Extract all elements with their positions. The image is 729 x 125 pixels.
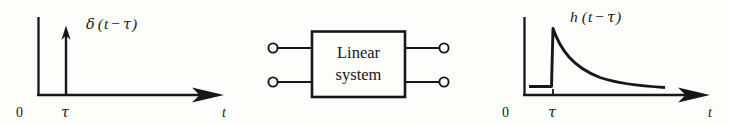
- input-terminal-top: [268, 43, 277, 52]
- input-open-paren: (: [98, 15, 104, 33]
- delta-symbol: δ: [86, 16, 95, 32]
- input-x-axis-label: t: [222, 105, 227, 120]
- output-tau-symbol: τ: [607, 9, 616, 25]
- output-minus: −: [595, 8, 604, 25]
- output-signal-plot: [523, 17, 710, 103]
- impulse-response-figure: δ(t−τ) 0 τ t Linear system h(t−τ) 0 τ t: [0, 0, 729, 125]
- input-tau-label: τ: [61, 104, 70, 120]
- output-variable: t: [588, 8, 593, 25]
- output-tau-label: τ: [548, 104, 557, 120]
- input-tau-symbol: τ: [123, 16, 132, 32]
- system-label-line-2: system: [336, 65, 382, 84]
- output-open-paren: (: [582, 8, 588, 26]
- h-symbol: h: [570, 8, 578, 25]
- input-minus: −: [111, 15, 120, 32]
- impulse-response-curve: [529, 29, 665, 88]
- input-terminal-bottom: [268, 77, 277, 86]
- output-x-axis-label: t: [708, 105, 713, 120]
- input-origin-label: 0: [16, 105, 23, 120]
- output-signal-label: h(t−τ): [570, 8, 621, 26]
- input-signal-label: δ(t−τ): [86, 15, 137, 33]
- input-close-paren: ): [131, 15, 137, 33]
- output-close-paren: ): [615, 8, 621, 26]
- output-terminal-top: [439, 43, 448, 52]
- output-origin-label: 0: [502, 105, 509, 120]
- output-terminal-bottom: [439, 77, 448, 86]
- system-label-line-1: Linear: [337, 43, 381, 62]
- input-variable: t: [104, 15, 109, 32]
